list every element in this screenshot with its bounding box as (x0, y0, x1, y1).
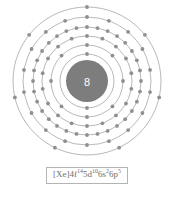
electron-dot (44, 30, 48, 34)
electron-dot (100, 121, 104, 125)
electron-dot (44, 128, 48, 132)
electron-dot (124, 57, 128, 61)
electron-dot (13, 96, 17, 100)
electron-dot (126, 128, 130, 132)
nucleus-atomic-number-label: 8 (84, 76, 90, 88)
electron-dot (22, 90, 26, 94)
electron-dot (138, 90, 142, 94)
electron-dot (129, 71, 133, 75)
electron-dot (96, 132, 100, 136)
electron-dot (30, 47, 34, 51)
electron-dot (70, 121, 74, 125)
electron-dot (85, 52, 89, 56)
atom-diagram-figure: 8 [Xe]4f145d106s26p5 (0, 0, 174, 200)
electron-dot (96, 26, 100, 30)
electron-dot (85, 5, 89, 9)
electron-dot (55, 124, 59, 128)
electron-dot (47, 117, 51, 121)
electron-dot (46, 102, 50, 106)
electron-dot (106, 129, 110, 133)
electron-dot (143, 33, 147, 37)
electron-dot (107, 19, 111, 23)
electron-dot (49, 79, 53, 83)
electron-dot (148, 68, 152, 72)
electron-dot (30, 111, 34, 115)
electron-dot (22, 68, 26, 72)
electron-dot (85, 106, 89, 110)
electron-dot (85, 25, 89, 29)
electron-dot (111, 54, 115, 58)
electron-dot (35, 58, 39, 62)
electron-dot (41, 87, 45, 91)
electron-dot (114, 114, 118, 118)
electron-dot (123, 117, 127, 121)
electron-dot (135, 100, 139, 104)
electron-dot (85, 143, 89, 147)
electron-dot (32, 90, 36, 94)
electron-dot (111, 105, 115, 109)
electron-dot (41, 71, 45, 75)
electron-dot (115, 124, 119, 128)
electron-dot (129, 87, 133, 91)
electron-dot (100, 37, 104, 41)
electron-dot (126, 30, 130, 34)
electron-dot (46, 57, 50, 61)
electron-dot (55, 34, 59, 38)
electron-dot (85, 34, 89, 38)
electron-dot (123, 41, 127, 45)
electron-dot (75, 26, 79, 30)
electron-dot (148, 90, 152, 94)
electron-configuration-text: [Xe]4f145d106s26p5 (48, 170, 126, 180)
electron-dot (107, 139, 111, 143)
electron-dot (139, 79, 143, 83)
electron-dot (35, 100, 39, 104)
electron-dot (60, 105, 64, 109)
electron-dot (64, 29, 68, 33)
electron-dot (135, 58, 139, 62)
electron-dot (106, 29, 110, 33)
electron-dot (141, 47, 145, 51)
electron-dot (85, 15, 89, 19)
electron-dot (70, 37, 74, 41)
electron-dot (32, 69, 36, 73)
electron-configuration-box: [Xe]4f145d106s26p5 (46, 167, 128, 184)
electron-dot (85, 124, 89, 128)
electron-dot (85, 43, 89, 47)
electron-dot (31, 79, 35, 83)
electron-dot (130, 49, 134, 53)
electron-shell-diagram: 8 (1, 2, 173, 162)
electron-dot (124, 102, 128, 106)
electron-dot (115, 34, 119, 38)
electron-dot (63, 19, 67, 23)
electron-dot (40, 49, 44, 53)
electron-dot (157, 96, 161, 100)
electron-dot (138, 69, 142, 73)
electron-dot (56, 114, 60, 118)
electron-dot (27, 33, 31, 37)
electron-dot (114, 45, 118, 49)
electron-dot (117, 146, 121, 150)
electron-dot (60, 54, 64, 58)
electron-dot (47, 41, 51, 45)
electron-dot (85, 115, 89, 119)
electron-dot (40, 109, 44, 113)
electron-dot (85, 133, 89, 137)
electron-dot (56, 45, 60, 49)
electron-dot (53, 146, 57, 150)
electron-dot (130, 109, 134, 113)
electron-dot (64, 129, 68, 133)
electron-dot (141, 111, 145, 115)
electron-dot (121, 79, 125, 83)
electron-dot (75, 132, 79, 136)
electron-dot (63, 139, 67, 143)
